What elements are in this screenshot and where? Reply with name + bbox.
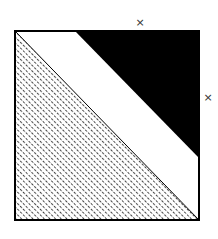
diagram-canvas bbox=[0, 0, 218, 239]
cross-marker-right: × bbox=[203, 92, 212, 103]
cross-marker-top: × bbox=[135, 17, 144, 28]
